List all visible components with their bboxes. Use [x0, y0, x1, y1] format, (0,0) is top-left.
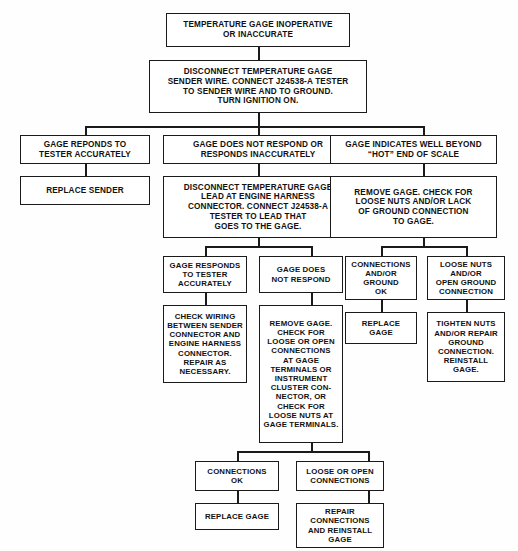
connector-b2cond-to-b2step	[258, 164, 260, 176]
node-start[interactable]: TEMPERATURE GAGE INOPERATIVE OR INACCURA…	[166, 13, 350, 47]
connector-b3bcond-to-b3bact	[466, 300, 468, 312]
connector-b3acond-to-b3aact	[381, 300, 383, 312]
connector-split4-bus	[237, 451, 368, 453]
connector-split3-left-drop	[381, 246, 383, 256]
connector-split2-bus	[205, 246, 311, 248]
connector-split3-bus	[381, 246, 466, 248]
node-branch3-step-remove-gage[interactable]: REMOVE GAGE. CHECK FOR LOOSE NUTS AND/OR…	[330, 176, 497, 238]
node-branch1-action-replace-sender[interactable]: REPLACE SENDER	[20, 176, 150, 205]
node-branch4a-condition-connections-ok[interactable]: CONNECTIONS OK	[195, 461, 279, 491]
node-branch3a-action-replace-gage[interactable]: REPLACE GAGE	[345, 312, 417, 344]
connector-b1cond-to-b1act	[85, 164, 87, 176]
connector-b3cond-to-b3step	[423, 164, 425, 176]
connector-split1-left-drop	[85, 126, 87, 135]
flowchart-canvas: TEMPERATURE GAGE INOPERATIVE OR INACCURA…	[0, 0, 518, 551]
node-branch2-condition-no-response[interactable]: GAGE DOES NOT RESPOND OR RESPONDS INACCU…	[163, 135, 353, 164]
connector-split4-right-drop	[368, 451, 370, 461]
connector-b4bcond-to-b4bact	[368, 491, 370, 503]
connector-b2acond-to-b2aact	[205, 293, 207, 305]
node-branch2b-condition-no-response[interactable]: GAGE DOES NOT RESPOND	[259, 256, 343, 293]
node-branch4b-condition-loose-open[interactable]: LOOSE OR OPEN CONNECTIONS	[296, 461, 384, 491]
connector-split1-mid-drop	[258, 126, 260, 135]
node-branch1-condition-gage-responds[interactable]: GAGE REPONDS TO TESTER ACCURATELY	[20, 135, 150, 164]
node-branch2a-action-check-wiring[interactable]: CHECK WIRING BETWEEN SENDER CONNECTOR AN…	[163, 305, 247, 383]
node-branch3b-action-tighten-nuts[interactable]: TIGHTEN NUTS AND/OR REPAIR GROUND CONNEC…	[427, 312, 505, 382]
node-branch4b-action-repair-connections[interactable]: REPAIR CONNECTIONS AND REINSTALL GAGE	[296, 503, 384, 548]
connector-split4-left-drop	[237, 451, 239, 461]
connector-split2-right-drop	[311, 246, 313, 256]
connector-b2bcond-to-b2bact	[311, 293, 313, 305]
connector-split3-right-drop	[466, 246, 468, 256]
node-branch3-condition-beyond-hot[interactable]: GAGE INDICATES WELL BEYOND “HOT” END OF …	[330, 135, 497, 164]
connector-split1-bus	[85, 126, 423, 128]
connector-split1-right-drop	[423, 126, 425, 135]
connector-split2-left-drop	[205, 246, 207, 256]
node-branch3b-condition-loose-nuts[interactable]: LOOSE NUTS AND/OR OPEN GROUND CONNECTION	[427, 256, 505, 300]
node-branch3a-condition-connections-ok[interactable]: CONNECTIONS AND/OR GROUND OK	[345, 256, 417, 300]
node-branch2a-condition-responds[interactable]: GAGE RESPONDS TO TESTER ACCURATELY	[163, 256, 247, 293]
connector-b4acond-to-b4aact	[237, 491, 239, 503]
node-branch2-step-disconnect-harness[interactable]: DISCONNECT TEMPERATURE GAGE LEAD AT ENGI…	[163, 176, 353, 238]
node-step1-disconnect-sender[interactable]: DISCONNECT TEMPERATURE GAGE SENDER WIRE.…	[149, 60, 367, 113]
connector-start-to-step1	[258, 47, 260, 60]
node-branch4a-action-replace-gage[interactable]: REPLACE GAGE	[195, 503, 279, 530]
connector-step1-down	[258, 113, 260, 127]
node-branch2b-action-remove-gage[interactable]: REMOVE GAGE. CHECK FOR LOOSE OR OPEN CON…	[259, 305, 343, 443]
